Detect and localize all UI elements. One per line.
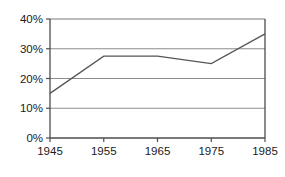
y-tick-label-0%: 0% (26, 132, 43, 144)
x-tick-label-1965: 1965 (145, 145, 171, 157)
y-tick-label-30%: 30% (20, 43, 43, 55)
x-tick-label-1945: 1945 (37, 145, 63, 157)
y-tick-label-20%: 20% (20, 73, 43, 85)
x-tick-label-1975: 1975 (198, 145, 224, 157)
y-tick-label-40%: 40% (20, 13, 43, 25)
x-tick-label-1985: 1985 (252, 145, 278, 157)
line-chart: 0%10%20%30%40% 19451955196519751985 (0, 0, 285, 177)
y-tick-label-10%: 10% (20, 102, 43, 114)
x-tick-label-1955: 1955 (91, 145, 117, 157)
chart-canvas: 0%10%20%30%40% 19451955196519751985 (0, 0, 285, 177)
